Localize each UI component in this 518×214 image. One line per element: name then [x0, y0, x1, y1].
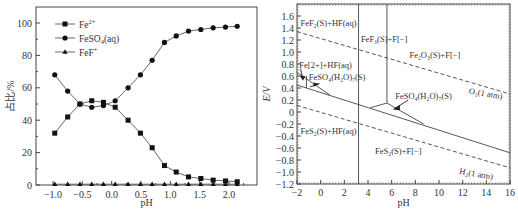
- left-xtick-label: −0.5: [73, 189, 91, 200]
- left-ytick-label: 60: [22, 82, 32, 93]
- region-label-fes2_hf: FeS₂(S)+HF(aq): [301, 126, 357, 136]
- legend: Fe2+FeSO4(aq)FeF+: [55, 18, 119, 58]
- chart-canvas: 020406080100−1.0−0.50.00.51.01.52.0pH占比/…: [0, 0, 518, 214]
- left-ytick-label: 100: [17, 18, 32, 29]
- right-ytick-label: 0.8: [282, 59, 295, 70]
- region-label-feso4_small: FeSO₄(H₂O)₇(S): [309, 72, 366, 82]
- right-ytick-label: −0.8: [276, 155, 294, 166]
- left-chart: 020406080100−1.0−0.50.00.51.01.52.0pH占比/…: [4, 7, 257, 208]
- legend-item: FeF+: [79, 46, 98, 58]
- right-xtick-label: 2: [342, 187, 347, 198]
- right-ytick-label: −1.0: [276, 167, 294, 178]
- left-xlabel: pH: [140, 197, 152, 208]
- right-ytick-label: 1.4: [282, 23, 295, 34]
- right-xtick-label: 6: [389, 187, 394, 198]
- left-ytick-label: 0: [27, 180, 32, 191]
- region-label-h2: H₂(1 atm): [459, 166, 494, 182]
- region-label-o2: O₂(1 atm): [468, 86, 503, 102]
- left-xtick-label: 0.0: [105, 189, 118, 200]
- left-xtick-label: −1.0: [44, 189, 62, 200]
- figure: 020406080100−1.0−0.50.00.51.01.52.0pH占比/…: [0, 0, 518, 214]
- region-label-feso4_mid: FeSO₄(H₂O)₇(S): [395, 91, 452, 101]
- right-ytick-label: 1.6: [282, 11, 295, 22]
- region-label-fe2plus: Fe[2+]+HF(aq): [299, 60, 352, 70]
- right-ytick-label: 0.4: [282, 83, 295, 94]
- right-xtick-label: 10: [434, 187, 444, 198]
- left-xtick-label: 1.5: [193, 189, 206, 200]
- region-label-fe2o3: Fe₂O₃(S)+F[−]: [409, 50, 460, 60]
- region-label-fef3: FeF₃(S)+F[−]: [361, 34, 408, 44]
- right-ytick-label: −0.2: [276, 119, 294, 130]
- right-xtick-label: 14: [481, 187, 491, 198]
- right-xtick-label: 8: [413, 187, 418, 198]
- region-label-fes2_f: FeS₂(S)+F[−]: [375, 146, 422, 156]
- right-ytick-label: 1.2: [282, 35, 295, 46]
- left-ytick-label: 40: [22, 115, 32, 126]
- right-xtick-label: −2: [292, 187, 303, 198]
- right-xtick-label: 0: [318, 187, 323, 198]
- left-plot-frame: [36, 7, 257, 185]
- left-ytick-label: 80: [22, 50, 32, 61]
- right-xtick-label: 4: [366, 187, 371, 198]
- legend-item: Fe2+: [79, 18, 96, 30]
- left-ytick-label: 20: [22, 147, 32, 158]
- right-ytick-label: 0: [289, 107, 294, 118]
- right-ytick-label: 1.0: [282, 47, 295, 58]
- arrow-icon: [300, 76, 305, 81]
- legend-item: FeSO4(aq): [79, 34, 119, 46]
- boundary-line: [297, 105, 510, 167]
- right-chart: −1.2−1.0−0.8−0.6−0.4−0.200.20.40.60.81.0…: [261, 4, 515, 208]
- right-ytick-label: 0.6: [282, 71, 295, 82]
- right-xlabel: pH: [397, 197, 409, 208]
- left-ylabel: 占比/%: [4, 80, 16, 111]
- boundary-line: [370, 103, 387, 108]
- region-label-fef2: FeF₂(S)+HF(aq): [301, 18, 357, 28]
- left-xtick-label: 2.0: [223, 189, 236, 200]
- left-xtick-label: 1.0: [164, 189, 177, 200]
- boundary-line: [387, 103, 424, 124]
- right-ytick-label: −0.4: [276, 131, 294, 142]
- right-ylabel: E/V: [261, 85, 272, 103]
- right-xtick-label: 12: [458, 187, 468, 198]
- series-square: [52, 98, 239, 184]
- right-xtick-label: 16: [505, 187, 515, 198]
- right-ytick-label: 0.2: [282, 95, 295, 106]
- right-ytick-label: −0.6: [276, 143, 294, 154]
